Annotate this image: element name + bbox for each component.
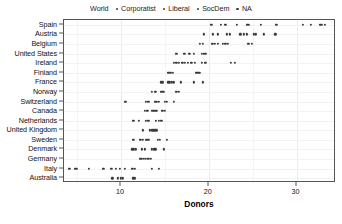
legend-entry-liberal: Liberal: [163, 5, 190, 12]
y-tick-mark: [59, 62, 63, 63]
gridline-horizontal: [64, 25, 334, 26]
gridline-horizontal: [64, 130, 334, 131]
y-tick-label-ireland: Ireland: [35, 58, 57, 67]
legend-label: SocDem: [202, 5, 229, 12]
legend-marker-icon: [236, 8, 239, 11]
y-tick-mark: [59, 129, 63, 130]
y-tick-mark: [59, 100, 63, 101]
y-tick-label-netherlands: Netherlands: [19, 115, 57, 124]
y-tick-label-finland: Finland: [34, 67, 57, 76]
gridline-horizontal: [64, 178, 334, 179]
gridline-horizontal: [64, 34, 334, 35]
gridline-horizontal: [64, 82, 334, 83]
y-tick-mark: [59, 110, 63, 111]
legend-label: World: [90, 5, 108, 12]
y-tick-label-united-states: United States: [15, 48, 58, 57]
y-tick-label-france: France: [35, 77, 57, 86]
y-tick-mark: [59, 158, 63, 159]
y-tick-mark: [59, 33, 63, 34]
y-tick-label-australia: Australia: [29, 173, 57, 182]
x-tick-mark: [295, 182, 296, 186]
y-tick-label-belgium: Belgium: [31, 38, 57, 47]
y-tick-mark: [59, 119, 63, 120]
legend-marker-icon: [163, 8, 166, 11]
y-tick-mark: [59, 177, 63, 178]
y-tick-mark: [59, 23, 63, 24]
x-tick-mark: [120, 182, 121, 186]
legend-label: Liberal: [168, 5, 189, 12]
y-tick-mark: [59, 71, 63, 72]
y-tick-label-canada: Canada: [32, 106, 57, 115]
y-tick-label-italy: Italy: [44, 163, 57, 172]
y-tick-mark: [59, 138, 63, 139]
y-tick-mark: [59, 42, 63, 43]
y-tick-mark: [59, 90, 63, 91]
y-tick-label-sweden: Sweden: [31, 134, 57, 143]
gridline-horizontal: [64, 140, 334, 141]
gridline-horizontal: [64, 63, 334, 64]
y-tick-label-germany: Germany: [28, 154, 57, 163]
plot-area: [63, 19, 335, 182]
gridline-horizontal: [64, 92, 334, 93]
gridline-horizontal: [64, 169, 334, 170]
gridline-horizontal: [64, 159, 334, 160]
chart-legend: WorldCorporatistLiberalSocDemNA: [0, 2, 342, 16]
gridline-horizontal: [64, 111, 334, 112]
x-tick-label: 10: [116, 187, 124, 196]
x-tick-label: 20: [204, 187, 212, 196]
y-tick-label-united-kingdom: United Kingdom: [7, 125, 57, 134]
chart-figure: WorldCorporatistLiberalSocDemNA SpainAus…: [0, 0, 342, 224]
gridline-horizontal: [64, 121, 334, 122]
legend-label: Corporatist: [121, 5, 156, 12]
legend-label: NA: [242, 5, 252, 12]
y-tick-label-switzerland: Switzerland: [20, 96, 57, 105]
gridline-horizontal: [64, 149, 334, 150]
legend-entry-corporatist: Corporatist: [116, 5, 156, 12]
x-tick-mark: [207, 182, 208, 186]
x-axis-title: Donors: [63, 199, 335, 209]
gridline-horizontal: [64, 102, 334, 103]
y-tick-label-norway: Norway: [33, 86, 57, 95]
x-tick-label: 30: [292, 187, 300, 196]
gridline-horizontal: [64, 54, 334, 55]
y-tick-mark: [59, 167, 63, 168]
y-axis: SpainAustriaBelgiumUnited StatesIrelandF…: [0, 19, 63, 182]
legend-entry-world: World: [90, 5, 108, 12]
y-tick-label-austria: Austria: [35, 29, 57, 38]
legend-entry-socdem: SocDem: [197, 5, 230, 12]
y-tick-mark: [59, 52, 63, 53]
y-tick-mark: [59, 81, 63, 82]
legend-marker-icon: [197, 8, 200, 11]
y-tick-label-denmark: Denmark: [28, 144, 57, 153]
y-tick-mark: [59, 148, 63, 149]
y-tick-label-spain: Spain: [39, 19, 57, 28]
legend-marker-icon: [116, 8, 119, 11]
legend-entry-na: NA: [236, 5, 251, 12]
